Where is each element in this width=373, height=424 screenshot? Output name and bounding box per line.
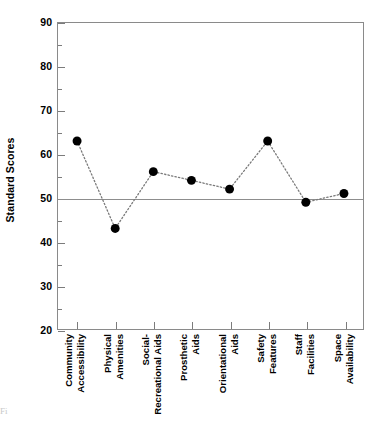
y-tick-label-90: 90 [18,16,52,28]
data-point-2 [149,167,158,176]
y-tick-label-40: 40 [18,236,52,248]
data-point-5 [263,137,272,146]
y-axis-title: Standard Scores [4,120,20,240]
y-tick-label-30: 30 [18,280,52,292]
y-tick-label-50: 50 [18,192,52,204]
series-line [77,141,344,228]
y-tick-label-80: 80 [18,60,52,72]
figure-caption: Fi [0,406,373,420]
y-tick-label-60: 60 [18,148,52,160]
y-tick-major-20 [58,331,65,332]
data-series [58,23,363,329]
plot-area [57,22,364,330]
y-tick-label-70: 70 [18,104,52,116]
figure: Standard Scores 9080706050403020 Communi… [0,0,373,424]
data-point-6 [301,198,310,207]
data-point-0 [73,137,82,146]
y-tick-label-20: 20 [18,324,52,336]
data-point-1 [111,224,120,233]
data-point-3 [187,176,196,185]
data-point-7 [339,189,348,198]
data-point-4 [225,185,234,194]
